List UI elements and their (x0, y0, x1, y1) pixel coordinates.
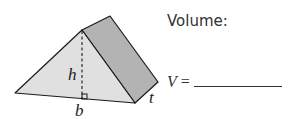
triangular-prism-diagram: h b t (0, 0, 300, 119)
answer-blank[interactable] (194, 74, 282, 87)
thickness-label: t (149, 88, 155, 107)
equals-sign: = (181, 73, 190, 91)
volume-answer-row: V = (167, 73, 282, 91)
height-label: h (68, 65, 77, 84)
base-label: b (75, 101, 84, 119)
volume-variable: V (167, 73, 177, 91)
volume-title: Volume: (167, 12, 228, 30)
